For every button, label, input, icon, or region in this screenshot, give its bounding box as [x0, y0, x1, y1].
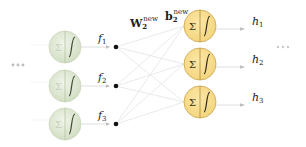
right-ellipsis [277, 46, 289, 48]
input-node-3: Σ [49, 108, 81, 140]
weight-edges [116, 26, 184, 124]
feature-label-f2: f2 [97, 71, 107, 85]
network-diagram: Σ Σ Σ f1 f2 f3 W2new b2new Σ [0, 0, 306, 147]
output-label-h3: h3 [252, 91, 264, 105]
sum-icon: Σ [189, 59, 196, 70]
output-label-h1: h1 [252, 15, 264, 29]
feature-dots [114, 45, 119, 127]
feature-label-f3: f3 [97, 109, 107, 123]
input-node-1: Σ [49, 31, 81, 63]
weight-label: W2new [129, 15, 158, 31]
output-node-2: Σ [184, 48, 216, 80]
sum-icon: Σ [189, 21, 196, 32]
left-ellipsis [12, 64, 25, 67]
feature-label-f1: f1 [97, 32, 107, 46]
input-node-2: Σ [49, 70, 81, 102]
sum-icon: Σ [55, 81, 62, 92]
sum-icon: Σ [55, 119, 62, 130]
sum-icon: Σ [189, 97, 196, 108]
output-label-h2: h2 [252, 53, 264, 67]
output-node-1: Σ [184, 10, 216, 42]
sum-icon: Σ [55, 42, 62, 53]
output-node-3: Σ [184, 86, 216, 118]
output-arrows [216, 27, 245, 106]
input-arrows [81, 45, 110, 125]
faint-edges [30, 45, 49, 120]
